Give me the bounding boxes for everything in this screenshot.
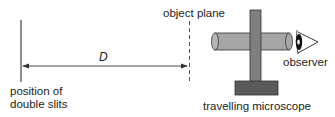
microscope-label: travelling microscope	[203, 100, 311, 112]
observer-label: observer	[283, 56, 328, 68]
distance-label: D	[99, 50, 108, 64]
tube-end-left	[212, 33, 219, 50]
object-plane-label: object plane	[163, 7, 225, 19]
eye-icon	[296, 30, 318, 54]
travelling-microscope	[212, 10, 293, 95]
double-slit-diagram: D object plane position of double slits …	[0, 0, 335, 117]
microscope-post	[250, 10, 261, 82]
slits-label-line2: double slits	[10, 98, 68, 110]
microscope-base	[235, 81, 278, 95]
tube-end-right	[286, 33, 293, 50]
slits-label-line1: position of	[10, 85, 63, 97]
